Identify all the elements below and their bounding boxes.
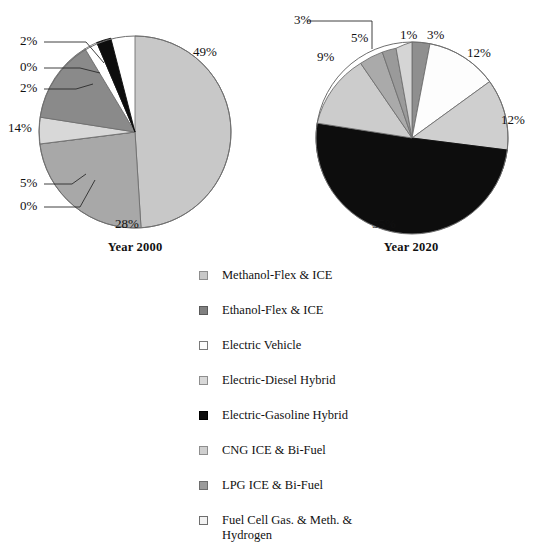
pie-label-2000-0pct-top: 0%: [20, 60, 37, 73]
legend-swatch-ethanol-flex-ice: [199, 306, 208, 315]
legend-swatch-fuel-cell: [199, 516, 208, 525]
legend-swatch-cng-ice-bi-fuel: [199, 446, 208, 455]
pie-label-2000-49pct: 49%: [193, 45, 217, 58]
legend-label-cng-ice-bi-fuel: CNG ICE & Bi-Fuel: [222, 443, 326, 458]
pie-label-2020-12pct-lower: 12%: [501, 113, 525, 126]
pie-slices-2020: [316, 42, 508, 234]
pie-label-2020-5pct: 5%: [351, 31, 368, 44]
chart-page: Year 2000 2% 0% 2% 14% 5% 0% 49% 28%: [0, 0, 546, 545]
pie-label-2000-28pct: 28%: [115, 217, 139, 230]
pie-slice-methanol-flex-ice: [135, 36, 231, 228]
legend-label-fuel-cell-line1: Fuel Cell Gas. & Meth. &: [222, 513, 352, 527]
legend-item-fuel-cell: Fuel Cell Gas. & Meth. & Hydrogen: [199, 513, 459, 545]
legend-item-ethanol-flex-ice: Ethanol-Flex & ICE: [199, 303, 459, 338]
pie-label-2020-1pct: 1%: [400, 28, 417, 41]
pie-label-2020-3pct-top: 3%: [294, 13, 311, 26]
pie-label-2000-14pct: 14%: [8, 121, 32, 134]
pie-label-2000-2pct-top: 2%: [20, 34, 37, 47]
legend-label-fuel-cell-line2: Hydrogen: [222, 528, 352, 543]
legend-label-electric-diesel-hybrid: Electric-Diesel Hybrid: [222, 373, 336, 388]
pie-label-2000-5pct: 5%: [20, 176, 37, 189]
chart-caption-2020: Year 2020: [276, 240, 546, 255]
legend: Methanol-Flex & ICE Ethanol-Flex & ICE E…: [199, 268, 459, 545]
legend-label-ethanol-flex-ice: Ethanol-Flex & ICE: [222, 303, 323, 318]
chart-caption-2000: Year 2000: [0, 240, 270, 255]
pie-label-2020-9pct: 9%: [317, 50, 334, 63]
pie-label-2020-12pct-upper: 12%: [467, 46, 491, 59]
legend-item-electric-gasoline-hybrid: Electric-Gasoline Hybrid: [199, 408, 459, 443]
pie-label-2020-3pct-right: 3%: [427, 28, 444, 41]
legend-swatch-lpg-ice-bi-fuel: [199, 481, 208, 490]
legend-label-lpg-ice-bi-fuel: LPG ICE & Bi-Fuel: [222, 478, 323, 493]
pie-label-2020-55pct: 55%: [372, 217, 396, 230]
legend-item-lpg-ice-bi-fuel: LPG ICE & Bi-Fuel: [199, 478, 459, 513]
pie-slices-2000: [39, 36, 231, 228]
legend-label-methanol-flex-ice: Methanol-Flex & ICE: [222, 268, 332, 283]
legend-item-methanol-flex-ice: Methanol-Flex & ICE: [199, 268, 459, 303]
legend-label-fuel-cell: Fuel Cell Gas. & Meth. & Hydrogen: [222, 513, 352, 543]
legend-item-cng-ice-bi-fuel: CNG ICE & Bi-Fuel: [199, 443, 459, 478]
pie-label-2000-0pct-lower: 0%: [20, 199, 37, 212]
legend-swatch-electric-diesel-hybrid: [199, 376, 208, 385]
legend-swatch-electric-gasoline-hybrid: [199, 411, 208, 420]
legend-item-electric-vehicle: Electric Vehicle: [199, 338, 459, 373]
legend-label-electric-gasoline-hybrid: Electric-Gasoline Hybrid: [222, 408, 348, 423]
legend-item-electric-diesel-hybrid: Electric-Diesel Hybrid: [199, 373, 459, 408]
pie-slice-ethanol-flex-ice: [40, 132, 141, 228]
legend-label-electric-vehicle: Electric Vehicle: [222, 338, 301, 353]
pie-label-2000-2pct-upper: 2%: [20, 81, 37, 94]
legend-swatch-electric-vehicle: [199, 341, 208, 350]
legend-swatch-methanol-flex-ice: [199, 271, 208, 280]
